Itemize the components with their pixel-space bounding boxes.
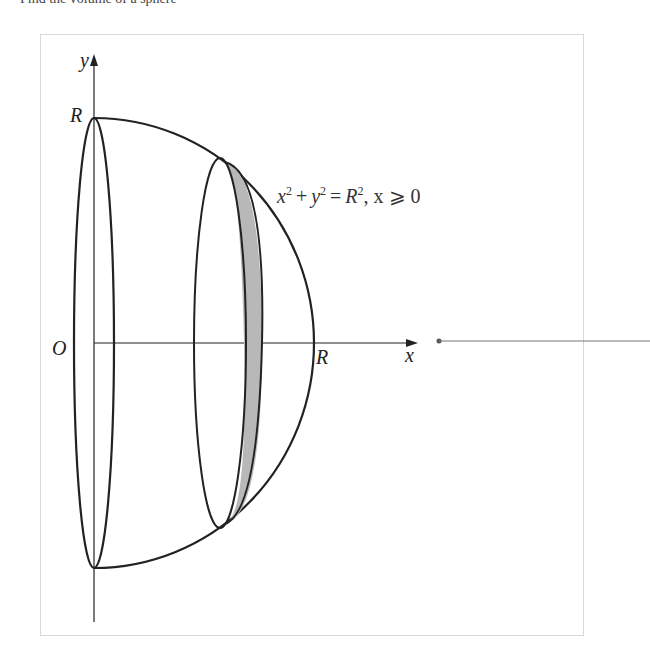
eq-y: y — [309, 185, 320, 208]
eq-x-exp: 2 — [286, 184, 292, 198]
eq-plus: + — [296, 185, 307, 207]
y-axis-arrow-icon — [90, 54, 98, 66]
eq-x: x — [276, 185, 286, 207]
x-axis-label: x — [404, 344, 414, 366]
origin-label: O — [52, 337, 66, 359]
hemisphere-diagram: y R O R x x2+y2=R2, x ⩾ 0 — [0, 0, 650, 665]
x-intercept-label: R — [315, 346, 328, 368]
eq-y-exp: 2 — [320, 184, 326, 198]
y-axis-label: y — [78, 49, 89, 72]
y-intercept-label: R — [69, 104, 82, 126]
eq-equals: = — [330, 185, 341, 207]
eq-condition: , x ⩾ 0 — [364, 185, 421, 207]
eq-R: R — [344, 185, 357, 207]
circle-equation: x2+y2=R2, x ⩾ 0 — [276, 184, 421, 208]
